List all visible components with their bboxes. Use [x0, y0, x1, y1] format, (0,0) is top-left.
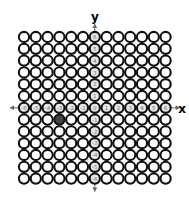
- axis-tick-circle: 3: [125, 103, 135, 113]
- grid-circle: [161, 56, 171, 66]
- grid-circle: [125, 138, 135, 148]
- tick-label: 2: [93, 81, 97, 87]
- grid-circle: [161, 79, 171, 89]
- grid-circle: [113, 91, 123, 101]
- grid-circle: [78, 162, 88, 172]
- grid-circle: [149, 56, 159, 66]
- tick-label: -2: [92, 129, 97, 135]
- grid-circle: [19, 174, 29, 184]
- grid-circle: [19, 150, 29, 160]
- axis-tick-circle: 4: [90, 56, 100, 66]
- axis-tick-circle: -4: [43, 103, 53, 113]
- tick-label: 1: [105, 105, 109, 111]
- axis-tick-circle: 1: [102, 103, 112, 113]
- grid-circle: [31, 162, 41, 172]
- tick-label: 1: [93, 93, 97, 99]
- axis-tick-circle: -6: [90, 174, 100, 184]
- grid-circle: [137, 56, 147, 66]
- grid-circle: [78, 115, 88, 125]
- grid-circle: [125, 91, 135, 101]
- grid-circle: [113, 32, 123, 42]
- grid-circle: [113, 162, 123, 172]
- grid-circle: [102, 56, 112, 66]
- grid-circle: [31, 150, 41, 160]
- axis-tick-circle: -2: [90, 126, 100, 136]
- grid-circle: [149, 115, 159, 125]
- tick-label: 4: [140, 105, 144, 111]
- grid-circle: [113, 150, 123, 160]
- grid-circle: [66, 138, 76, 148]
- axis-tick-circle: 0: [90, 103, 100, 113]
- grid-circle: [102, 91, 112, 101]
- grid-circle: [31, 126, 41, 136]
- grid-circle: [102, 67, 112, 77]
- grid-circle: [66, 126, 76, 136]
- tick-label: 0: [93, 105, 97, 111]
- grid-circle: [149, 67, 159, 77]
- grid-circle: [19, 67, 29, 77]
- grid-circle: [19, 44, 29, 54]
- axis-tick-circle: -2: [66, 103, 76, 113]
- grid-circle: [125, 150, 135, 160]
- tick-label: -6: [92, 176, 98, 182]
- grid-circle: [66, 67, 76, 77]
- grid-circle: [78, 126, 88, 136]
- grid-circle: [43, 150, 53, 160]
- tick-label: -3: [57, 105, 63, 111]
- grid-circle: [78, 150, 88, 160]
- x-axis-label: x: [178, 102, 186, 116]
- grid-circle: [54, 138, 64, 148]
- grid-circle: [102, 115, 112, 125]
- grid-circle: [161, 162, 171, 172]
- grid-circle: [66, 32, 76, 42]
- grid-circle: [137, 91, 147, 101]
- grid-circle: [137, 150, 147, 160]
- axis-tick-circle: 1: [90, 91, 100, 101]
- grid-circle: [19, 162, 29, 172]
- grid-circle: [43, 44, 53, 54]
- grid-circle: [54, 56, 64, 66]
- tick-label: -5: [92, 164, 98, 170]
- grid-circle: [149, 150, 159, 160]
- grid-circle: [113, 126, 123, 136]
- tick-label: 6: [93, 34, 97, 40]
- grid-circle: [113, 79, 123, 89]
- grid-circle: [19, 79, 29, 89]
- axis-tick-circle: -6: [19, 103, 29, 113]
- grid-circle: [149, 126, 159, 136]
- grid-circle: [149, 162, 159, 172]
- arrow-up-icon: [92, 24, 97, 28]
- grid-circle: [66, 115, 76, 125]
- axis-tick-circle: -1: [78, 103, 88, 113]
- grid-canvas: 654321-6-5-4-3-2-10123456-1-2-3-4-5-6 y …: [0, 0, 189, 202]
- grid-circle: [54, 126, 64, 136]
- grid-circle: [113, 44, 123, 54]
- grid-circle: [113, 115, 123, 125]
- grid-circle: [31, 138, 41, 148]
- grid-circle: [137, 67, 147, 77]
- grid-circle: [102, 162, 112, 172]
- grid-circle: [161, 91, 171, 101]
- grid-circle: [43, 91, 53, 101]
- tick-label: 5: [152, 105, 156, 111]
- axis-tick-circle: 6: [161, 103, 171, 113]
- coordinate-grid-diagram: 654321-6-5-4-3-2-10123456-1-2-3-4-5-6 y …: [0, 0, 189, 202]
- grid-circle: [31, 56, 41, 66]
- axis-tick-circle: -1: [90, 115, 100, 125]
- grid-circle: [137, 174, 147, 184]
- grid-circle: [54, 67, 64, 77]
- grid-circle: [125, 44, 135, 54]
- y-axis-label: y: [91, 10, 99, 24]
- grid-circle: [149, 79, 159, 89]
- grid-circle: [31, 115, 41, 125]
- tick-label: 3: [93, 70, 97, 76]
- tick-label: -2: [68, 105, 73, 111]
- tick-label: 4: [93, 58, 97, 64]
- axis-tick-circle: 5: [149, 103, 159, 113]
- grid-circle: [149, 32, 159, 42]
- tick-label: 5: [93, 46, 97, 52]
- tick-label: -6: [21, 105, 27, 111]
- tick-label: -4: [92, 152, 98, 158]
- grid-circle: [66, 162, 76, 172]
- grid-circle: [43, 138, 53, 148]
